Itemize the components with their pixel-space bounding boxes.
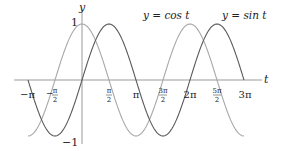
x-tick-two-pi: 2π bbox=[184, 89, 197, 100]
x-tick-three-pi: 3π bbox=[239, 89, 252, 100]
svg-text:π: π bbox=[107, 87, 112, 95]
x-tick-half-pi: π 2 bbox=[106, 87, 112, 104]
svg-text:π: π bbox=[53, 87, 58, 95]
y-axis-label: y bbox=[78, 1, 86, 14]
x-tick-five-half-pi: 5π 2 bbox=[212, 87, 221, 104]
x-tick-three-half-pi: 3π 2 bbox=[158, 87, 167, 104]
y-tick-neg-1: −1 bbox=[62, 136, 78, 149]
cos-legend-label: y = cos t bbox=[142, 9, 190, 21]
x-axis-label: t bbox=[264, 73, 269, 86]
x-tick-pi: π bbox=[133, 89, 140, 100]
sin-legend-label: y = sin t bbox=[221, 9, 267, 21]
x-tick-neg-pi: −π bbox=[20, 89, 35, 100]
svg-text:2: 2 bbox=[53, 96, 57, 104]
svg-text:3π: 3π bbox=[158, 87, 167, 95]
svg-text:2: 2 bbox=[107, 96, 111, 104]
svg-text:2: 2 bbox=[161, 96, 165, 104]
svg-text:2: 2 bbox=[215, 96, 219, 104]
svg-text:5π: 5π bbox=[212, 87, 221, 95]
trig-chart: y t 1 −1 y = cos t y = sin t −π − π 2 π … bbox=[0, 0, 282, 151]
y-tick-1: 1 bbox=[71, 16, 78, 29]
